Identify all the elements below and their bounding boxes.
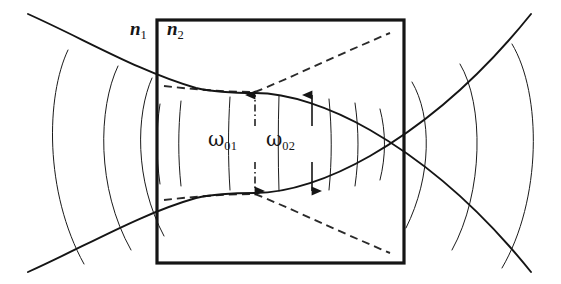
gaussian-beam-figure: n1 n2 ω01 ω02 (0, 0, 561, 284)
figure-canvas (0, 0, 561, 284)
